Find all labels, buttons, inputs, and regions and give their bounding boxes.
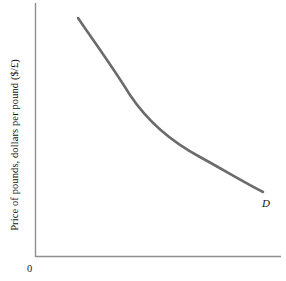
chart-canvas [0, 0, 286, 281]
y-axis-label: Price of pounds, dollars per pound ($/£) [9, 59, 20, 231]
demand-curve-figure: Price of pounds, dollars per pound ($/£)… [0, 0, 286, 281]
demand-curve-label: D [262, 198, 270, 209]
origin-label: 0 [27, 264, 32, 275]
demand-curve-path [78, 18, 263, 192]
